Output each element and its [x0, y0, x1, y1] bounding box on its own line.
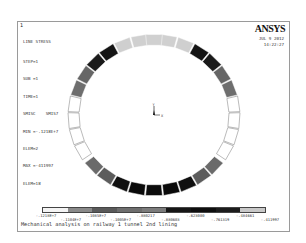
- lining-element: [68, 96, 81, 112]
- legend-value-label: -.1085E+7: [85, 214, 106, 218]
- lining-element: [69, 128, 84, 145]
- legend-value-label: -.880217: [136, 214, 154, 218]
- plot-caption: Mechanical analysis on railway 1 tunnel …: [21, 221, 177, 227]
- lining-element: [146, 185, 163, 196]
- lining-element: [128, 182, 146, 196]
- lining-element: [75, 142, 92, 160]
- lining-element: [146, 34, 163, 45]
- legend-color-1: [68, 208, 93, 212]
- legend-color-4: [142, 208, 167, 212]
- legend-value-label: -.411997: [261, 218, 279, 222]
- ansys-graphics-window: 1 LINE STRESS STEP=1 SUB =1 TIME=1 SMISC…: [17, 21, 290, 232]
- legend-color-7: [216, 208, 241, 212]
- legend-value-label: -.761319: [211, 218, 229, 222]
- legend-color-2: [92, 208, 117, 212]
- coordinate-triad-icon: Y X: [153, 103, 165, 118]
- legend-value-label: -.1218E+7: [36, 214, 57, 218]
- legend-color-5: [166, 208, 191, 212]
- legend-color-3: [117, 208, 142, 212]
- svg-text:Y: Y: [153, 103, 156, 107]
- legend-value-label: -.484661: [236, 214, 254, 218]
- legend-color-0: [43, 208, 68, 212]
- lining-element: [68, 113, 80, 129]
- lining-element: [224, 128, 239, 145]
- lining-element: [228, 113, 240, 129]
- legend-color-6: [191, 208, 216, 212]
- tunnel-lining-plot: Y X: [18, 22, 291, 233]
- legend-value-label: -.623000: [186, 214, 204, 218]
- svg-text:X: X: [161, 114, 164, 118]
- lining-element: [227, 96, 240, 112]
- lining-element: [217, 142, 234, 160]
- legend-color-8: [240, 208, 265, 212]
- lining-element: [162, 182, 180, 196]
